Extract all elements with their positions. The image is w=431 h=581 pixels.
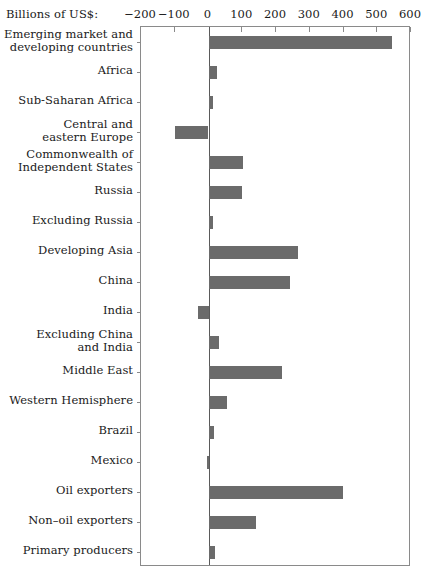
category-label-line: Developing Asia: [0, 244, 133, 258]
category-label-line: India: [0, 304, 133, 318]
category-tick-mark: [137, 492, 141, 493]
category-label: Excluding Russia: [0, 214, 133, 228]
category-label: China: [0, 274, 133, 288]
category-label: Mexico: [0, 454, 133, 468]
bar: [209, 216, 213, 229]
bar: [198, 306, 208, 319]
category-tick-mark: [137, 252, 141, 253]
category-label: Non–oil exporters: [0, 514, 133, 528]
category-tick-mark: [137, 72, 141, 73]
reserves-accumulation-bar-chart: Billions of US$: −200−100010020030040050…: [0, 0, 431, 581]
category-tick-mark: [137, 192, 141, 193]
category-tick-mark: [137, 42, 141, 43]
category-label-line: eastern Europe: [0, 131, 133, 145]
category-label-line: Primary producers: [0, 544, 133, 558]
category-label-line: Excluding China: [0, 328, 133, 342]
category-tick-mark: [137, 222, 141, 223]
category-tick-mark: [137, 102, 141, 103]
category-label: Oil exporters: [0, 484, 133, 498]
category-tick-mark: [137, 522, 141, 523]
x-axis-tick-label: 600: [388, 7, 431, 21]
category-label-line: Emerging market and: [0, 28, 133, 42]
category-tick-mark: [137, 372, 141, 373]
category-tick-mark: [137, 162, 141, 163]
x-axis-tick-mark: [410, 27, 411, 32]
category-label: Brazil: [0, 424, 133, 438]
x-axis-tick-mark: [376, 27, 377, 32]
bar: [209, 336, 219, 349]
bar: [209, 366, 283, 379]
category-label-line: Mexico: [0, 454, 133, 468]
category-label: India: [0, 304, 133, 318]
category-tick-mark: [137, 462, 141, 463]
category-tick-mark: [137, 312, 141, 313]
bar: [209, 246, 298, 259]
category-label: Excluding Chinaand India: [0, 328, 133, 355]
category-label-line: Central and: [0, 118, 133, 132]
category-label-line: Western Hemisphere: [0, 394, 133, 408]
bar: [209, 66, 217, 79]
category-label-line: developing countries: [0, 41, 133, 55]
chart-axis-header: Billions of US$: −200−100010020030040050…: [0, 0, 431, 26]
category-label: Russia: [0, 184, 133, 198]
category-tick-mark: [137, 432, 141, 433]
bar: [209, 486, 343, 499]
category-label-line: Russia: [0, 184, 133, 198]
category-label-column: Emerging market anddeveloping countriesA…: [0, 26, 140, 566]
category-label: Primary producers: [0, 544, 133, 558]
bar: [209, 156, 243, 169]
x-axis-tick-mark: [343, 27, 344, 32]
category-label: Commonwealth ofIndependent States: [0, 148, 133, 175]
category-label-line: Non–oil exporters: [0, 514, 133, 528]
bar: [209, 96, 213, 109]
category-label: Emerging market anddeveloping countries: [0, 28, 133, 55]
category-label-line: China: [0, 274, 133, 288]
category-label-line: Middle East: [0, 364, 133, 378]
bar: [209, 426, 215, 439]
x-axis-tick-mark: [309, 27, 310, 32]
category-label-line: Brazil: [0, 424, 133, 438]
category-label-line: Excluding Russia: [0, 214, 133, 228]
x-axis-tick-mark: [241, 27, 242, 32]
category-label-line: Commonwealth of: [0, 148, 133, 162]
axis-units-caption: Billions of US$:: [6, 7, 98, 21]
x-axis-tick-mark: [174, 27, 175, 32]
category-label: Central andeastern Europe: [0, 118, 133, 145]
category-tick-mark: [137, 402, 141, 403]
bar: [175, 126, 208, 139]
x-axis-tick-mark: [140, 27, 141, 32]
category-label: Western Hemisphere: [0, 394, 133, 408]
category-label: Africa: [0, 64, 133, 78]
bar: [209, 276, 291, 289]
category-label-line: Africa: [0, 64, 133, 78]
category-label: Sub-Saharan Africa: [0, 94, 133, 108]
category-label: Developing Asia: [0, 244, 133, 258]
bar: [209, 396, 227, 409]
category-tick-mark: [137, 342, 141, 343]
category-label: Middle East: [0, 364, 133, 378]
bar: [209, 546, 215, 559]
category-label-line: Sub-Saharan Africa: [0, 94, 133, 108]
bar: [209, 36, 392, 49]
bar: [209, 186, 243, 199]
x-axis-tick-mark: [275, 27, 276, 32]
bar: [209, 516, 257, 529]
category-tick-mark: [137, 132, 141, 133]
category-label-line: and India: [0, 341, 133, 355]
plot-area: [140, 26, 410, 566]
category-label-line: Oil exporters: [0, 484, 133, 498]
bar: [207, 456, 209, 469]
category-tick-mark: [137, 552, 141, 553]
category-tick-mark: [137, 282, 141, 283]
category-label-line: Independent States: [0, 161, 133, 175]
